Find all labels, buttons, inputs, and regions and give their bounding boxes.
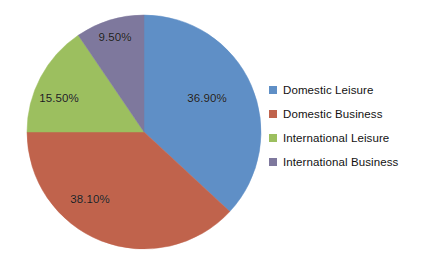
legend-item-label: International Leisure bbox=[283, 132, 389, 144]
pie-slice-label: 38.10% bbox=[70, 193, 110, 205]
legend-color-swatch bbox=[269, 158, 277, 166]
legend-item-label: International Business bbox=[283, 156, 398, 168]
pie-slice-label: 9.50% bbox=[98, 31, 131, 43]
pie-svg bbox=[0, 0, 280, 253]
pie-slice-label: 36.90% bbox=[187, 92, 227, 104]
pie-slice-label: 15.50% bbox=[39, 92, 79, 104]
legend-item[interactable]: International Business bbox=[269, 150, 427, 174]
pie-plot-area: 36.90%38.10%15.50%9.50% bbox=[0, 0, 280, 253]
legend-item-label: Domestic Business bbox=[283, 108, 382, 120]
legend-color-swatch bbox=[269, 134, 277, 142]
legend-item[interactable]: International Leisure bbox=[269, 126, 427, 150]
pie-chart: 36.90%38.10%15.50%9.50% Domestic Leisure… bbox=[0, 0, 427, 253]
legend-item-label: Domestic Leisure bbox=[283, 84, 373, 96]
legend-color-swatch bbox=[269, 110, 277, 118]
legend-color-swatch bbox=[269, 86, 277, 94]
legend-item[interactable]: Domestic Leisure bbox=[269, 78, 427, 102]
pie-slices bbox=[27, 15, 261, 249]
chart-legend: Domestic LeisureDomestic BusinessInterna… bbox=[269, 78, 427, 174]
legend-item[interactable]: Domestic Business bbox=[269, 102, 427, 126]
